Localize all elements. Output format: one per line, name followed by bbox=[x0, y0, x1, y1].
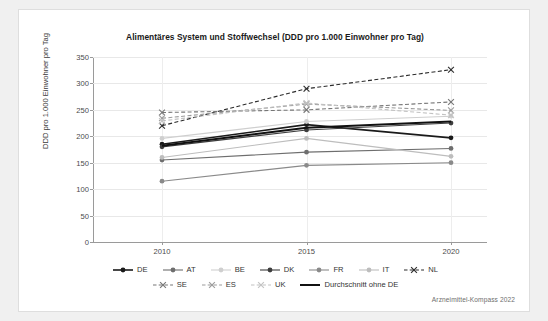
y-tickmark-0 bbox=[90, 242, 93, 243]
legend-swatch-SE bbox=[152, 280, 174, 290]
series-IT bbox=[160, 136, 454, 160]
legend-item-AT[interactable]: AT bbox=[162, 265, 196, 275]
legend-item-ES[interactable]: ES bbox=[201, 280, 236, 290]
y-tick-250: 250 bbox=[76, 105, 89, 114]
datapoint-FR-2010 bbox=[160, 179, 165, 184]
legend-swatch-DK bbox=[259, 265, 281, 275]
plot-inner: 050100150200250300350 201020152020 bbox=[93, 57, 487, 242]
chart-figure: Alimentäres System und Stoffwechsel (DDD… bbox=[18, 9, 530, 312]
y-tick-350: 350 bbox=[76, 53, 89, 62]
legend-item-DE[interactable]: DE bbox=[112, 265, 148, 275]
datapoint-NL-2020 bbox=[448, 67, 454, 73]
datapoint-FR-2015 bbox=[304, 163, 309, 168]
y-tick-300: 300 bbox=[76, 79, 89, 88]
y-axis-label: DDD pro 1.000 Einwohner pro Tag bbox=[41, 33, 50, 149]
y-tick-100: 100 bbox=[76, 185, 89, 194]
legend-item-FR[interactable]: FR bbox=[308, 265, 343, 275]
y-tick-150: 150 bbox=[76, 158, 89, 167]
legend-label-IT: IT bbox=[383, 265, 390, 274]
datapoint-FR-2020 bbox=[449, 160, 454, 165]
legend-label-BE: BE bbox=[235, 265, 245, 274]
x-tickmark-2015 bbox=[307, 242, 308, 245]
series-layer bbox=[93, 57, 487, 242]
datapoint-IT-2020 bbox=[449, 154, 454, 159]
series-DE bbox=[160, 122, 454, 146]
chart-legend: DEATBEDKFRITNLSEESUKDurchschnitt ohne DE bbox=[19, 262, 531, 292]
legend-label-DK: DK bbox=[284, 265, 295, 274]
legend-label-UK: UK bbox=[275, 280, 286, 289]
datapoint-AT-2015 bbox=[304, 150, 309, 155]
chart-title: Alimentäres System und Stoffwechsel (DDD… bbox=[19, 32, 531, 42]
legend-swatch-FR bbox=[308, 265, 330, 275]
legend-item-Durchschnitt ohne DE[interactable]: Durchschnitt ohne DE bbox=[299, 280, 398, 290]
legend-row-2: SEESUKDurchschnitt ohne DE bbox=[19, 277, 531, 292]
legend-swatch-DE bbox=[112, 265, 134, 275]
x-tick-2020: 2020 bbox=[443, 247, 460, 256]
series-SE bbox=[159, 99, 454, 115]
datapoint-BE-2015 bbox=[304, 119, 309, 124]
x-tickmark-2020 bbox=[451, 242, 452, 245]
legend-item-IT[interactable]: IT bbox=[358, 265, 390, 275]
legend-swatch-AT bbox=[162, 265, 184, 275]
y-tick-50: 50 bbox=[81, 211, 89, 220]
legend-swatch-ES bbox=[201, 280, 223, 290]
legend-item-UK[interactable]: UK bbox=[250, 280, 286, 290]
legend-label-Durchschnitt ohne DE: Durchschnitt ohne DE bbox=[324, 280, 398, 289]
legend-label-NL: NL bbox=[428, 265, 438, 274]
datapoint-DE-2020 bbox=[449, 135, 454, 140]
legend-swatch-BE bbox=[210, 265, 232, 275]
y-tick-0: 0 bbox=[85, 238, 89, 247]
legend-swatch-IT bbox=[358, 265, 380, 275]
legend-item-BE[interactable]: BE bbox=[210, 265, 245, 275]
plot-area: 050100150200250300350 201020152020 bbox=[93, 48, 487, 244]
x-tick-2015: 2015 bbox=[298, 247, 315, 256]
legend-label-ES: ES bbox=[226, 280, 236, 289]
datapoint-AT-2020 bbox=[449, 146, 454, 151]
legend-label-AT: AT bbox=[187, 265, 196, 274]
legend-item-NL[interactable]: NL bbox=[403, 265, 438, 275]
x-tickmark-2010 bbox=[162, 242, 163, 245]
legend-swatch-NL bbox=[403, 265, 425, 275]
source-credit: Arzneimittel-Kompass 2022 bbox=[432, 296, 515, 303]
datapoint-IT-2015 bbox=[304, 136, 309, 141]
series-AT bbox=[160, 146, 454, 162]
series-FR bbox=[160, 160, 454, 183]
datapoint-IT-2010 bbox=[160, 155, 165, 160]
legend-label-DE: DE bbox=[137, 265, 148, 274]
legend-label-SE: SE bbox=[177, 280, 187, 289]
gridline-0 bbox=[93, 242, 487, 243]
legend-swatch-UK bbox=[250, 280, 272, 290]
legend-row-1: DEATBEDKFRITNL bbox=[19, 262, 531, 277]
x-tick-2010: 2010 bbox=[154, 247, 171, 256]
legend-label-FR: FR bbox=[333, 265, 343, 274]
y-tick-200: 200 bbox=[76, 132, 89, 141]
legend-item-SE[interactable]: SE bbox=[152, 280, 187, 290]
legend-swatch-Durchschnitt ohne DE bbox=[299, 280, 321, 290]
datapoint-SE-2020 bbox=[448, 99, 454, 105]
legend-item-DK[interactable]: DK bbox=[259, 265, 295, 275]
datapoint-BE-2010 bbox=[160, 136, 165, 141]
